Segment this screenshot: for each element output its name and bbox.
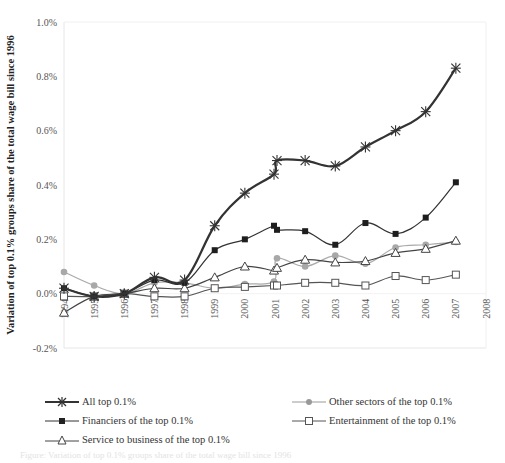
x-tick-label: 2008 <box>481 299 492 319</box>
filled-square-marker-icon <box>362 220 368 226</box>
x-tick-label: 2004 <box>360 299 371 319</box>
asterisk-marker-icon <box>180 275 190 286</box>
legend-item-entertainment: Entertainment of the top 0.1% <box>292 415 456 426</box>
legend-item-all-top: All top 0.1% <box>45 396 136 407</box>
legend-item-service-business: Service to business of the top 0.1% <box>45 434 230 445</box>
filled-square-marker-icon <box>453 179 459 185</box>
open-square-marker-icon <box>422 277 429 284</box>
open-square-marker-icon <box>241 283 248 290</box>
asterisk-marker-icon <box>240 188 250 199</box>
asterisk-marker-icon <box>360 141 370 152</box>
asterisk-marker-icon <box>269 169 279 180</box>
circle-marker-icon <box>274 255 281 262</box>
open-triangle-marker-icon <box>210 273 219 281</box>
filled-square-marker-icon <box>302 228 308 234</box>
asterisk-marker-icon <box>210 220 220 231</box>
y-tick-label: 0.6% <box>36 125 57 136</box>
asterisk-marker-icon <box>300 155 310 166</box>
asterisk-marker-icon <box>149 272 159 283</box>
filled-square-marker-icon <box>332 242 338 248</box>
y-tick-label: 0.4% <box>36 180 57 191</box>
legend-label: Service to business of the top 0.1% <box>82 434 230 445</box>
asterisk-marker-icon <box>421 106 431 117</box>
legend-label: Financiers of the top 0.1% <box>82 415 193 426</box>
filled-square-marker-icon <box>393 231 399 237</box>
y-axis-label: Variation of top 0.1% groups share of th… <box>5 35 16 334</box>
series-line <box>64 68 456 297</box>
series-financiers-of-the-top-0-1- <box>61 179 459 299</box>
y-tick-label: 0.2% <box>36 234 57 245</box>
filled-square-marker-icon <box>212 247 218 253</box>
y-tick-label: 0.8% <box>36 71 57 82</box>
open-triangle-marker-icon <box>45 435 79 445</box>
asterisk-marker-icon <box>59 283 69 294</box>
asterisk-marker-icon <box>119 288 129 299</box>
legend-label: Other sectors of the top 0.1% <box>329 396 452 407</box>
y-tick-label: 1.0% <box>36 17 57 28</box>
legend-item-financiers: Financiers of the top 0.1% <box>45 415 193 426</box>
x-tick-label: 1999 <box>209 299 220 319</box>
circle-marker-icon <box>91 282 98 289</box>
x-tick-label: 2002 <box>300 299 311 319</box>
series-all-top-0-1- <box>59 63 461 302</box>
filled-square-marker-icon <box>423 215 429 221</box>
x-tick-label: 1997 <box>149 299 160 319</box>
x-tick-label: 1998 <box>179 299 190 319</box>
legend-label: Entertainment of the top 0.1% <box>329 415 456 426</box>
open-square-marker-icon <box>274 282 281 289</box>
open-square-marker-icon <box>151 293 158 300</box>
circle-marker-icon <box>302 263 309 270</box>
open-square-marker-icon <box>452 271 459 278</box>
filled-square-marker-icon <box>274 227 280 233</box>
asterisk-marker-icon <box>45 397 79 407</box>
asterisk-marker-icon <box>391 125 401 136</box>
open-square-marker-icon <box>211 285 218 292</box>
open-square-marker-icon <box>292 416 326 426</box>
figure-caption: Figure: Variation of top 0.1% groups sha… <box>20 450 490 460</box>
x-tick-label: 1996 <box>119 299 130 319</box>
x-tick-label: 2003 <box>330 299 341 319</box>
line-chart: -0.2%0.0%0.2%0.4%0.6%0.8%1.0%19941995199… <box>0 0 505 430</box>
legend-label: All top 0.1% <box>82 396 136 407</box>
circle-marker-icon <box>292 397 326 407</box>
circle-marker-icon <box>61 269 68 276</box>
x-tick-label: 2007 <box>450 299 461 319</box>
open-triangle-marker-icon <box>451 236 460 244</box>
asterisk-marker-icon <box>330 160 340 171</box>
x-tick-label: 2006 <box>420 299 431 319</box>
x-tick-label: 2001 <box>270 299 281 319</box>
x-tick-label: 2005 <box>390 299 401 319</box>
open-square-marker-icon <box>302 279 309 286</box>
open-square-marker-icon <box>392 273 399 280</box>
open-square-marker-icon <box>332 279 339 286</box>
asterisk-marker-icon <box>272 155 282 166</box>
filled-square-marker-icon <box>242 236 248 242</box>
open-square-marker-icon <box>61 293 68 300</box>
open-square-marker-icon <box>181 293 188 300</box>
chart-series <box>59 63 461 316</box>
asterisk-marker-icon <box>89 291 99 302</box>
y-tick-label: 0.0% <box>36 288 57 299</box>
filled-square-marker-icon <box>45 416 79 426</box>
chart-axes: -0.2%0.0%0.2%0.4%0.6%0.8%1.0%19941995199… <box>33 17 492 354</box>
asterisk-marker-icon <box>451 63 461 74</box>
x-tick-label: 2000 <box>239 299 250 319</box>
open-square-marker-icon <box>362 282 369 289</box>
y-tick-label: -0.2% <box>33 343 57 354</box>
legend-item-other-sectors: Other sectors of the top 0.1% <box>292 396 452 407</box>
